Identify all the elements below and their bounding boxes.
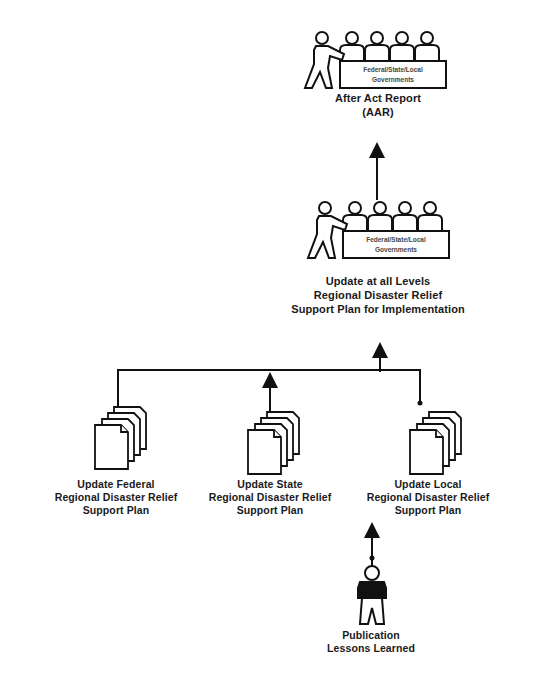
svg-text:Governments: Governments (372, 76, 414, 83)
meeting-table-icon: Federal/State/Local Governments (302, 28, 462, 90)
svg-text:Federal/State/Local: Federal/State/Local (366, 236, 426, 243)
document-stack-icon (90, 405, 150, 475)
document-stack-icon (243, 410, 303, 480)
local-plan-label: Update Local Regional Disaster Relief Su… (367, 478, 490, 517)
publication-label: Publication Lessons Learned (327, 629, 415, 655)
meeting-table-icon: Federal/State/Local Governments (305, 198, 465, 260)
person-icon (352, 564, 392, 626)
state-plan-label: Update State Regional Disaster Relief Su… (209, 478, 332, 517)
diagram-canvas: Federal/State/Local Governments After Ac… (0, 0, 540, 687)
update-all-levels-label: Update at all Levels Regional Disaster R… (291, 274, 465, 316)
svg-text:Governments: Governments (375, 246, 417, 253)
document-stack-icon (405, 410, 465, 480)
federal-plan-label: Update Federal Regional Disaster Relief … (55, 478, 178, 517)
aar-label: After Act Report (AAR) (335, 91, 421, 119)
connector-lines (0, 0, 540, 687)
svg-text:Federal/State/Local: Federal/State/Local (363, 66, 423, 73)
